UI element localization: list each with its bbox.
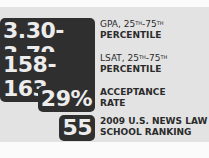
acceptance-value-badge: 29% — [38, 86, 95, 112]
stat-row-lsat: 158-163 LSAT, 25TH-75TH PERCENTILE — [0, 52, 209, 80]
ranking-value-badge: 55 — [59, 115, 95, 141]
ranking-label: 2009 U.S. NEWS LAW SCHOOL RANKING — [100, 116, 207, 138]
acceptance-label: ACCEPTANCE RATE — [100, 87, 166, 109]
stat-row-gpa: 3.30-3.79 GPA, 25TH-75TH PERCENTILE — [0, 18, 209, 46]
lsat-label: LSAT, 25TH-75TH PERCENTILE — [100, 53, 167, 75]
gpa-label: GPA, 25TH-75TH PERCENTILE — [100, 19, 164, 41]
law-school-stats-panel: 3.30-3.79 GPA, 25TH-75TH PERCENTILE 158-… — [0, 7, 209, 142]
stat-row-acceptance: 29% ACCEPTANCE RATE — [0, 86, 209, 114]
stat-row-ranking: 55 2009 U.S. NEWS LAW SCHOOL RANKING — [0, 115, 209, 143]
